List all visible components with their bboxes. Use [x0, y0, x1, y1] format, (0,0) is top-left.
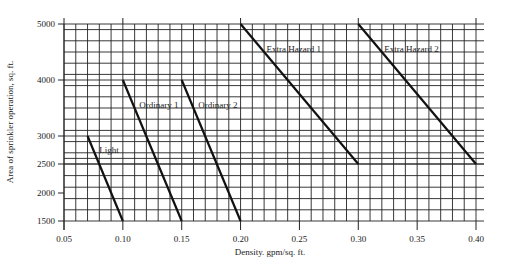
chart: 1500200025003000400050000.050.100.150.20… [0, 0, 507, 271]
x-tick-label: 0.40 [468, 234, 484, 244]
series-label: Extra Hazard 1 [266, 44, 320, 54]
x-tick-label: 0.10 [115, 234, 131, 244]
y-tick-label: 4000 [37, 75, 56, 85]
y-tick-label: 5000 [37, 19, 56, 29]
x-axis-title: Density. gpm/sq. ft. [235, 247, 306, 257]
series-label: Light [99, 145, 119, 155]
x-tick-label: 0.15 [174, 234, 190, 244]
y-tick-label: 2000 [37, 188, 56, 198]
x-tick-label: 0.30 [350, 234, 366, 244]
series-label: Ordinary 1 [139, 100, 178, 110]
y-tick-label: 2500 [37, 159, 56, 169]
x-tick-label: 0.35 [409, 234, 425, 244]
y-tick-label: 3000 [37, 131, 56, 141]
series-label: Extra Hazard 2 [384, 44, 438, 54]
y-axis-title: Area of sprinkler operation, sq. ft. [5, 61, 15, 183]
x-tick-label: 0.05 [56, 234, 72, 244]
x-tick-label: 0.20 [233, 234, 249, 244]
series-label: Ordinary 2 [198, 100, 237, 110]
x-tick-label: 0.25 [292, 234, 308, 244]
y-tick-label: 1500 [37, 216, 56, 226]
